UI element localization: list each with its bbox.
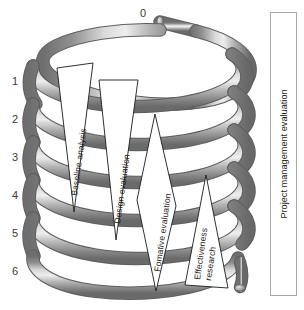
cycle-label-4: 4 <box>12 190 18 201</box>
spiral-evaluation-diagram: Baseline analysis Design evaluation Foma… <box>0 0 304 310</box>
cycle-label-6: 6 <box>12 266 18 277</box>
cycle-label-0: 0 <box>140 8 146 19</box>
project-management-evaluation-box: Project management evaluation <box>270 12 297 296</box>
cycle-label-5: 5 <box>12 228 18 239</box>
cycle-label-3: 3 <box>12 152 18 163</box>
coil-graphic: Baseline analysis Design evaluation Foma… <box>0 0 304 310</box>
cycle-label-2: 2 <box>12 114 18 125</box>
cycle-label-1: 1 <box>12 76 18 87</box>
phase-effectiveness-research[interactable]: Effectiveness research <box>185 175 228 288</box>
coil-end-cap <box>235 285 245 291</box>
project-management-evaluation-label: Project management evaluation <box>279 89 289 218</box>
